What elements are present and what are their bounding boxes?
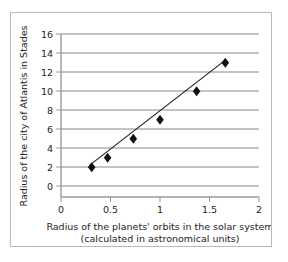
- ytick-label-12: 12: [41, 67, 53, 78]
- xtick-label-1: 1: [157, 204, 163, 215]
- ytick-label-16: 16: [41, 29, 53, 40]
- ytick-label-0: 0: [47, 181, 53, 192]
- ytick-label-4: 4: [47, 143, 53, 154]
- xtick-label-2: 2: [256, 204, 262, 215]
- xtick-label-0.5: 0.5: [103, 204, 118, 215]
- ytick-label-2: 2: [47, 162, 53, 173]
- ytick-label-6: 6: [47, 124, 53, 135]
- ytick-label-8: 8: [47, 105, 53, 116]
- xtick-label-0: 0: [58, 204, 64, 215]
- x-axis-title-line-2: (calculated in astronomical units): [81, 233, 240, 244]
- chart-figure-frame: 16 14 12 10 8 6 4 2 0 0 0.5 1 1.5 2: [10, 12, 272, 247]
- ytick-label-14: 14: [41, 48, 53, 59]
- xtick-label-1.5: 1.5: [202, 204, 217, 215]
- scatter-chart: 16 14 12 10 8 6 4 2 0 0 0.5 1 1.5 2: [11, 13, 271, 246]
- ytick-label-10: 10: [41, 86, 53, 97]
- x-axis-title-line-1: Radius of the planets' orbits in the sol…: [46, 221, 271, 232]
- y-axis-title: Radius of the city of Atlantis in Stades: [18, 25, 29, 206]
